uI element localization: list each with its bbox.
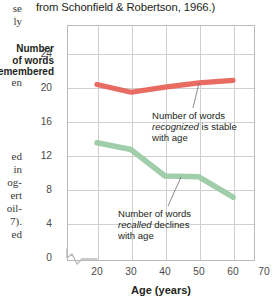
y-tick-4: 4 bbox=[24, 218, 52, 229]
x-tick-60: 60 bbox=[218, 266, 248, 277]
x-axis-title: Age (years) bbox=[67, 284, 255, 296]
gridline-horizontal bbox=[68, 88, 254, 89]
y-tick-0: 0 bbox=[24, 252, 52, 263]
bleed-text-lower: ed in og- ert oil- 7). ed bbox=[0, 150, 22, 241]
annotation-recalled-line2: declines bbox=[152, 219, 190, 230]
figure-caption: from Schonfield & Robertson, 1966.) bbox=[36, 1, 215, 13]
y-tick-12: 12 bbox=[24, 150, 52, 161]
y-tick-24: 24 bbox=[24, 48, 52, 59]
x-tick-70: 70 bbox=[249, 266, 275, 277]
annotation-recalled: Number of words recalled declines with a… bbox=[118, 208, 218, 242]
gridline-horizontal bbox=[68, 54, 254, 55]
y-tick-16: 16 bbox=[24, 116, 52, 127]
x-tick-40: 40 bbox=[150, 266, 180, 277]
bleed-text-middle: en bbox=[0, 76, 22, 89]
x-tick-30: 30 bbox=[116, 266, 146, 277]
y-tick-8: 8 bbox=[24, 184, 52, 195]
gridline-horizontal bbox=[68, 190, 254, 191]
annotation-recognized-line1: Number of words bbox=[152, 110, 225, 121]
annotation-recognized-emphasis: recognized bbox=[152, 121, 199, 132]
annotation-recognized: Number of words recognized is stable wit… bbox=[152, 110, 252, 144]
x-tick-20: 20 bbox=[82, 266, 112, 277]
annotation-recalled-line3: with age bbox=[118, 230, 154, 241]
annotation-recalled-emphasis: recalled bbox=[118, 219, 152, 230]
annotation-recognized-line2: is stable bbox=[199, 121, 237, 132]
gridline-horizontal bbox=[68, 156, 254, 157]
bleed-text-top: se ly bbox=[0, 2, 22, 28]
y-tick-20: 20 bbox=[24, 82, 52, 93]
annotation-recognized-line3: with age bbox=[152, 132, 188, 143]
annotation-recalled-line1: Number of words bbox=[118, 208, 191, 219]
x-tick-50: 50 bbox=[184, 266, 214, 277]
